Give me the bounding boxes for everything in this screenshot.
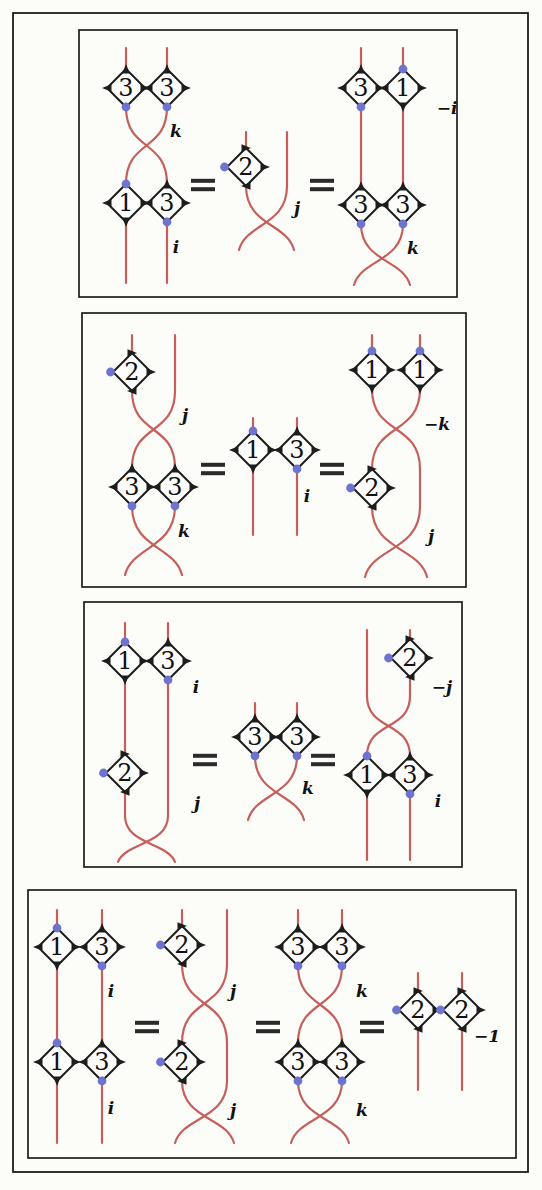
corner-dot <box>122 180 131 189</box>
corner-dot <box>53 924 62 933</box>
index-label-i: i <box>108 981 114 1001</box>
string-diagram-figure: 331323133kij−ik23313112jki−kj13233213ijk… <box>0 0 542 1190</box>
corner-dot <box>164 676 173 685</box>
corner-dot <box>163 103 172 112</box>
equals-bar <box>256 1029 280 1033</box>
index-label-k: k <box>407 238 419 258</box>
index-label-i: i <box>173 237 179 257</box>
equals-bar <box>191 179 215 183</box>
coupon-number: 3 <box>290 933 305 961</box>
corner-dot <box>294 1077 303 1086</box>
coupon-number: 3 <box>290 1048 305 1076</box>
corner-dot <box>357 220 366 229</box>
coupon-number: 1 <box>245 436 260 464</box>
coupon-number: 1 <box>117 647 132 675</box>
corner-dot <box>251 752 260 761</box>
corner-dot <box>406 790 415 799</box>
coupon-number: 3 <box>160 647 175 675</box>
equals-bar <box>360 1021 384 1025</box>
figure-canvas: 331323133kij−ik23313112jki−kj13233213ijk… <box>0 0 542 1190</box>
coupon-number: 3 <box>124 473 139 501</box>
coupon-number: 3 <box>334 1048 349 1076</box>
index-label-i: i <box>108 1098 114 1118</box>
corner-dot <box>293 465 302 474</box>
corner-dot <box>436 1006 445 1015</box>
equals-bar <box>135 1029 159 1033</box>
coupon-number: 3 <box>289 723 304 751</box>
coupon-number: 3 <box>167 473 182 501</box>
corner-dot <box>416 347 425 356</box>
coupon-number: 1 <box>412 356 427 384</box>
index-label-k: k <box>356 1100 368 1120</box>
corner-dot <box>98 1077 107 1086</box>
index-label-minus-j: −j <box>432 677 453 697</box>
coupon-number: 3 <box>159 189 174 217</box>
coupon-number: 3 <box>247 723 262 751</box>
coupon-number: 1 <box>118 189 133 217</box>
coupon-number: 3 <box>353 191 368 219</box>
corner-dot <box>363 752 372 761</box>
corner-dot <box>53 1039 62 1048</box>
corner-dot <box>294 962 303 971</box>
corner-dot <box>121 638 130 647</box>
corner-dot <box>156 1058 165 1067</box>
corner-dot <box>163 218 172 227</box>
coupon-number: 2 <box>124 358 139 386</box>
index-label-k: k <box>302 778 314 798</box>
equals-bar <box>360 1029 384 1033</box>
corner-dot <box>384 654 393 663</box>
corner-dot <box>128 502 137 511</box>
index-label-k: k <box>170 121 182 141</box>
coupon-number: 1 <box>359 761 374 789</box>
coupon-number: 3 <box>94 1048 109 1076</box>
corner-dot <box>156 941 165 950</box>
equals-bar <box>256 1021 280 1025</box>
index-label-i: i <box>304 486 310 506</box>
equals-bar <box>135 1021 159 1025</box>
corner-dot <box>293 752 302 761</box>
corner-dot <box>106 368 115 377</box>
corner-dot <box>249 427 258 436</box>
corner-dot <box>99 769 108 778</box>
coupon-number: 2 <box>238 153 253 181</box>
equals-bar <box>320 463 344 467</box>
coupon-number: 3 <box>118 74 133 102</box>
equals-bar <box>193 762 217 766</box>
equals-bar <box>310 187 334 191</box>
index-label-minus-1: −1 <box>474 1026 500 1046</box>
equals-bar <box>320 471 344 475</box>
equals-bar <box>193 754 217 758</box>
coupon-number: 2 <box>174 1048 189 1076</box>
corner-dot <box>368 347 377 356</box>
corner-dot <box>357 103 366 112</box>
equals-bar <box>201 463 225 467</box>
coupon-number: 2 <box>410 996 425 1024</box>
index-label-i: i <box>193 677 199 697</box>
coupon-number: 2 <box>174 931 189 959</box>
corner-dot <box>399 220 408 229</box>
coupon-number: 2 <box>454 996 469 1024</box>
corner-dot <box>98 962 107 971</box>
coupon-number: 2 <box>402 644 417 672</box>
coupon-number: 3 <box>402 761 417 789</box>
corner-dot <box>346 484 355 493</box>
coupon-number: 2 <box>117 759 132 787</box>
coupon-number: 3 <box>159 74 174 102</box>
coupon-number: 3 <box>94 933 109 961</box>
coupon-number: 1 <box>49 933 64 961</box>
corner-dot <box>338 1077 347 1086</box>
index-label-k: k <box>356 981 368 1001</box>
equals-bar <box>310 179 334 183</box>
corner-dot <box>220 163 229 172</box>
equals-bar <box>191 187 215 191</box>
coupon-number: 3 <box>289 436 304 464</box>
equals-bar <box>311 754 335 758</box>
coupon-number: 2 <box>364 474 379 502</box>
coupon-number: 1 <box>364 356 379 384</box>
corner-dot <box>171 502 180 511</box>
coupon-number: 1 <box>49 1048 64 1076</box>
coupon-number: 3 <box>395 191 410 219</box>
index-label-minus-k: −k <box>424 414 450 434</box>
coupon-number: 3 <box>353 74 368 102</box>
index-label-k: k <box>178 521 190 541</box>
